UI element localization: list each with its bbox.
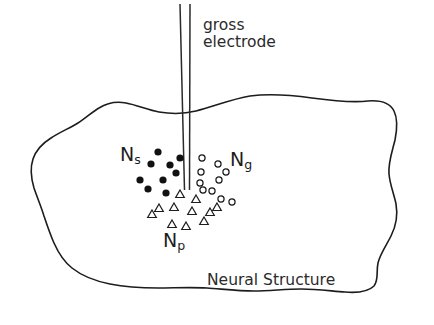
open-circle-marker — [198, 169, 204, 175]
open-triangle-marker — [192, 195, 201, 203]
open-circle-marker — [209, 188, 215, 194]
open-circle-marker — [215, 161, 221, 167]
population-label-ns: Ns — [120, 143, 141, 167]
population-label-ns-base: N — [120, 143, 134, 165]
gross-electrode-label: gross electrode — [203, 17, 276, 52]
open-circle-marker — [218, 196, 224, 202]
figure-root: gross electrode Neural Structure Ns Ng N… — [0, 0, 434, 325]
population-label-ng: Ng — [230, 148, 252, 172]
filled-circle-marker — [166, 161, 173, 168]
open-circle-marker — [216, 177, 222, 183]
population-label-ng-base: N — [230, 148, 244, 170]
open-triangle-marker — [168, 220, 177, 228]
electrode-right-edge — [190, 4, 191, 190]
population-ns-markers — [136, 148, 183, 196]
electrode-left-edge — [180, 4, 185, 190]
open-circle-marker — [229, 199, 235, 205]
filled-circle-marker — [154, 148, 161, 155]
filled-circle-marker — [136, 176, 143, 183]
filled-circle-marker — [144, 185, 151, 192]
population-label-ng-subscript: g — [244, 157, 252, 172]
open-circle-marker — [223, 169, 229, 175]
filled-circle-marker — [172, 169, 179, 176]
population-np-markers — [148, 190, 222, 230]
population-label-np-base: N — [163, 229, 177, 251]
open-triangle-marker — [188, 207, 197, 215]
open-triangle-marker — [200, 217, 209, 225]
open-triangle-marker — [155, 204, 164, 212]
population-label-np-subscript: p — [177, 238, 185, 253]
open-triangle-marker — [176, 190, 185, 198]
open-circle-marker — [199, 155, 205, 161]
open-circle-marker — [200, 187, 206, 193]
filled-circle-marker — [147, 160, 154, 167]
neural-structure-label: Neural Structure — [207, 272, 335, 289]
open-circle-marker — [197, 180, 203, 186]
gross-electrode — [180, 4, 190, 190]
population-label-np: Np — [163, 229, 185, 253]
filled-circle-marker — [176, 154, 183, 161]
filled-circle-marker — [162, 189, 169, 196]
open-triangle-marker — [170, 203, 179, 211]
population-label-ns-subscript: s — [134, 152, 141, 167]
filled-circle-marker — [159, 176, 166, 183]
open-triangle-marker — [213, 203, 222, 211]
